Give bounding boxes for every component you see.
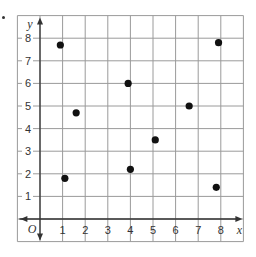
y-tick-label: 7 [25, 55, 31, 67]
origin-label: O [28, 222, 37, 236]
data-point [73, 109, 80, 116]
x-tick-label: 2 [82, 224, 88, 236]
x-tick-label: 3 [105, 224, 111, 236]
data-point [213, 184, 220, 191]
y-tick-label: 3 [25, 145, 31, 157]
data-point [125, 80, 132, 87]
y-axis-arrow-down-icon [37, 234, 43, 241]
x-tick-label: 6 [173, 224, 179, 236]
data-point [61, 175, 68, 182]
x-tick-label: 7 [195, 224, 201, 236]
x-tick-label: 1 [60, 224, 66, 236]
x-axis-arrow-left-icon [20, 216, 27, 222]
data-point [127, 166, 134, 173]
scatter-plot: 1234567812345678yxO [0, 0, 256, 257]
x-tick-label: 8 [218, 224, 224, 236]
y-axis-arrow-up-icon [37, 18, 43, 25]
data-point [215, 39, 222, 46]
data-point [152, 136, 159, 143]
y-tick-label: 8 [25, 32, 31, 44]
y-tick-label: 4 [25, 123, 31, 135]
data-point [57, 41, 64, 48]
y-tick-label: 2 [25, 168, 31, 180]
data-point [186, 102, 193, 109]
y-tick-label: 5 [25, 100, 31, 112]
x-tick-label: 4 [127, 224, 133, 236]
x-axis-label: x [236, 223, 243, 237]
y-tick-label: 6 [25, 77, 31, 89]
y-axis-label: y [26, 17, 33, 31]
x-axis-arrow-right-icon [235, 216, 242, 222]
y-tick-label: 1 [25, 190, 31, 202]
x-tick-label: 5 [150, 224, 156, 236]
